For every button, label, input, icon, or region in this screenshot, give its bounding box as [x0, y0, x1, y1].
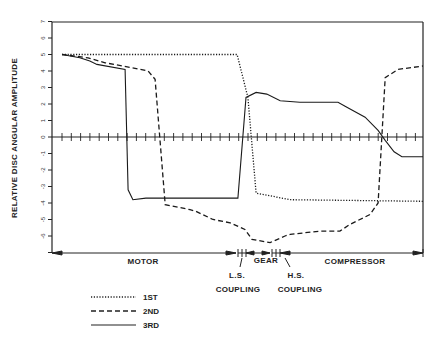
hs-coupling-label-bottom: COUPLING [278, 285, 323, 294]
series-lines [62, 55, 423, 243]
y-tick-label: 7 [40, 19, 46, 23]
y-tick-label: -1 [40, 150, 46, 156]
y-axis-ticks: 76543210-1-2-3-4-5-6 [40, 19, 52, 252]
y-tick-label: 5 [40, 52, 46, 56]
y-axis-label: RELATIVE DISC ANGULAR AMPLITUDE [10, 58, 19, 218]
y-tick-label: -4 [40, 200, 46, 206]
legend-label-1st: 1ST [143, 293, 158, 302]
y-tick-label: -5 [40, 216, 46, 222]
y-tick-label: 1 [40, 118, 46, 122]
mode-shape-chart: 76543210-1-2-3-4-5-6 RELATIVE DISC ANGUL… [0, 0, 446, 339]
series-line-2nd [62, 55, 423, 243]
y-tick-label: 0 [40, 135, 46, 139]
legend-label-3rd: 3RD [143, 321, 159, 330]
ls-coupling-label-bottom: COUPLING [216, 285, 261, 294]
hs-coupling-label-top: H.S. [288, 271, 305, 280]
y-tick-label: 4 [40, 69, 46, 73]
legend-label-2nd: 2ND [143, 307, 159, 316]
y-tick-label: 3 [40, 85, 46, 89]
y-tick-label: -6 [40, 233, 46, 239]
series-line-3rd [62, 55, 423, 200]
legend: 1ST 2ND 3RD [91, 293, 159, 330]
region-label-compressor: COMPRESSOR [325, 257, 386, 266]
y-tick-label: 6 [40, 36, 46, 40]
region-label-gear: GEAR [254, 256, 278, 265]
series-line-1st [62, 55, 423, 202]
zero-line [52, 133, 423, 141]
region-label-motor: MOTOR [127, 257, 158, 266]
y-tick-label: 2 [40, 102, 46, 106]
ls-coupling-label-top: L.S. [229, 271, 245, 280]
y-tick-label: -3 [40, 183, 46, 189]
y-tick-label: -2 [40, 167, 46, 173]
